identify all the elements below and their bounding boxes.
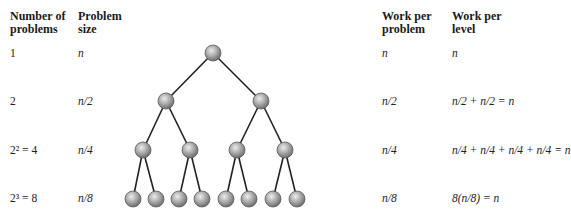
tree-node <box>135 142 151 158</box>
tree-edge <box>213 53 261 101</box>
tree-node <box>158 93 174 109</box>
tree-node <box>277 142 293 158</box>
tree-node <box>171 191 187 207</box>
tree-node <box>253 93 269 109</box>
tree-node <box>182 142 198 158</box>
tree-node <box>241 191 257 207</box>
tree-edge <box>166 53 213 101</box>
tree-node <box>218 191 234 207</box>
tree-node <box>229 142 245 158</box>
tree-node <box>265 191 281 207</box>
tree-node <box>205 45 221 61</box>
tree-node <box>289 191 305 207</box>
tree-edges <box>133 53 297 199</box>
tree-node <box>194 191 210 207</box>
tree-node <box>125 191 141 207</box>
tree-node <box>148 191 164 207</box>
